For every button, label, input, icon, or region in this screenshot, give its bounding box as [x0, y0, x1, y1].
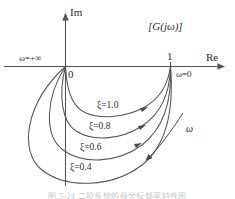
curve-label-zeta-0-4: ξ=0.4	[70, 163, 91, 173]
curve-label-zeta-1-0: ξ=1.0	[97, 101, 118, 111]
figure-caption: 图 5-24 二阶系统的极坐标频率特性图	[0, 190, 235, 199]
curve-label-zeta-0-8: ξ=0.8	[89, 122, 110, 132]
unit-tick-label: 1	[167, 51, 173, 62]
nyquist-curve-zeta-0-6	[49, 67, 170, 160]
transfer-function-label: [G(jω)]	[148, 21, 183, 32]
nyquist-plot-figure: Im Re [G(jω)] ω=+∞ 0 1 ω=0 ξ=1.0 ξ=0.8 ξ…	[0, 0, 235, 199]
omega-zero-label: ω=0	[176, 70, 192, 79]
curve-direction-arrowhead-1	[140, 107, 148, 112]
curve-direction-arrowhead-2	[138, 125, 146, 130]
imaginary-axis-label: Im	[70, 7, 82, 18]
curve-label-zeta-0-6: ξ=0.6	[80, 143, 101, 153]
omega-direction-label: ω	[186, 124, 193, 134]
real-axis-label: Re	[206, 52, 218, 63]
omega-infinity-label: ω=+∞	[19, 54, 42, 63]
origin-label: 0	[68, 69, 74, 80]
